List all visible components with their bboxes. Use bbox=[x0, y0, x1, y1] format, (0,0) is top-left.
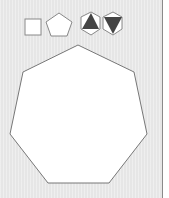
hexagon-triangle-down-option[interactable] bbox=[103, 12, 122, 35]
pentagon-icon bbox=[46, 13, 72, 36]
square-icon bbox=[25, 19, 41, 35]
shape-canvas bbox=[0, 0, 169, 198]
heptagon-shape[interactable] bbox=[10, 45, 147, 183]
hexagon-triangle-up-option[interactable] bbox=[81, 12, 100, 35]
square-option[interactable] bbox=[25, 19, 41, 35]
pentagon-option[interactable] bbox=[46, 13, 72, 36]
